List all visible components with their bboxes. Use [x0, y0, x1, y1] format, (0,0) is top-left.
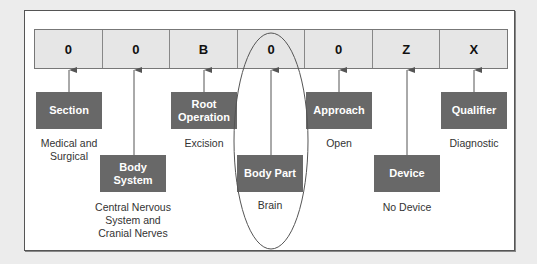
label-box-qualifier: Qualifier	[441, 92, 507, 129]
label-box-root-operation: Root Operation	[171, 92, 237, 129]
label-box-body-part: Body Part	[237, 155, 303, 192]
value-approach: Open	[306, 137, 372, 150]
connector-layer	[0, 0, 537, 264]
value-qualifier: Diagnostic	[436, 137, 512, 150]
value-device: No Device	[366, 201, 448, 214]
label-box-approach: Approach	[306, 92, 372, 129]
label-box-section: Section	[36, 92, 102, 129]
label-box-device: Device	[374, 155, 440, 192]
value-section: Medical and Surgical	[36, 137, 102, 163]
label-box-body-system: Body System	[100, 155, 166, 192]
value-body-part: Brain	[237, 199, 303, 212]
value-body-system: Central Nervous System and Cranial Nerve…	[88, 201, 178, 240]
value-root-operation: Excision	[171, 137, 237, 150]
